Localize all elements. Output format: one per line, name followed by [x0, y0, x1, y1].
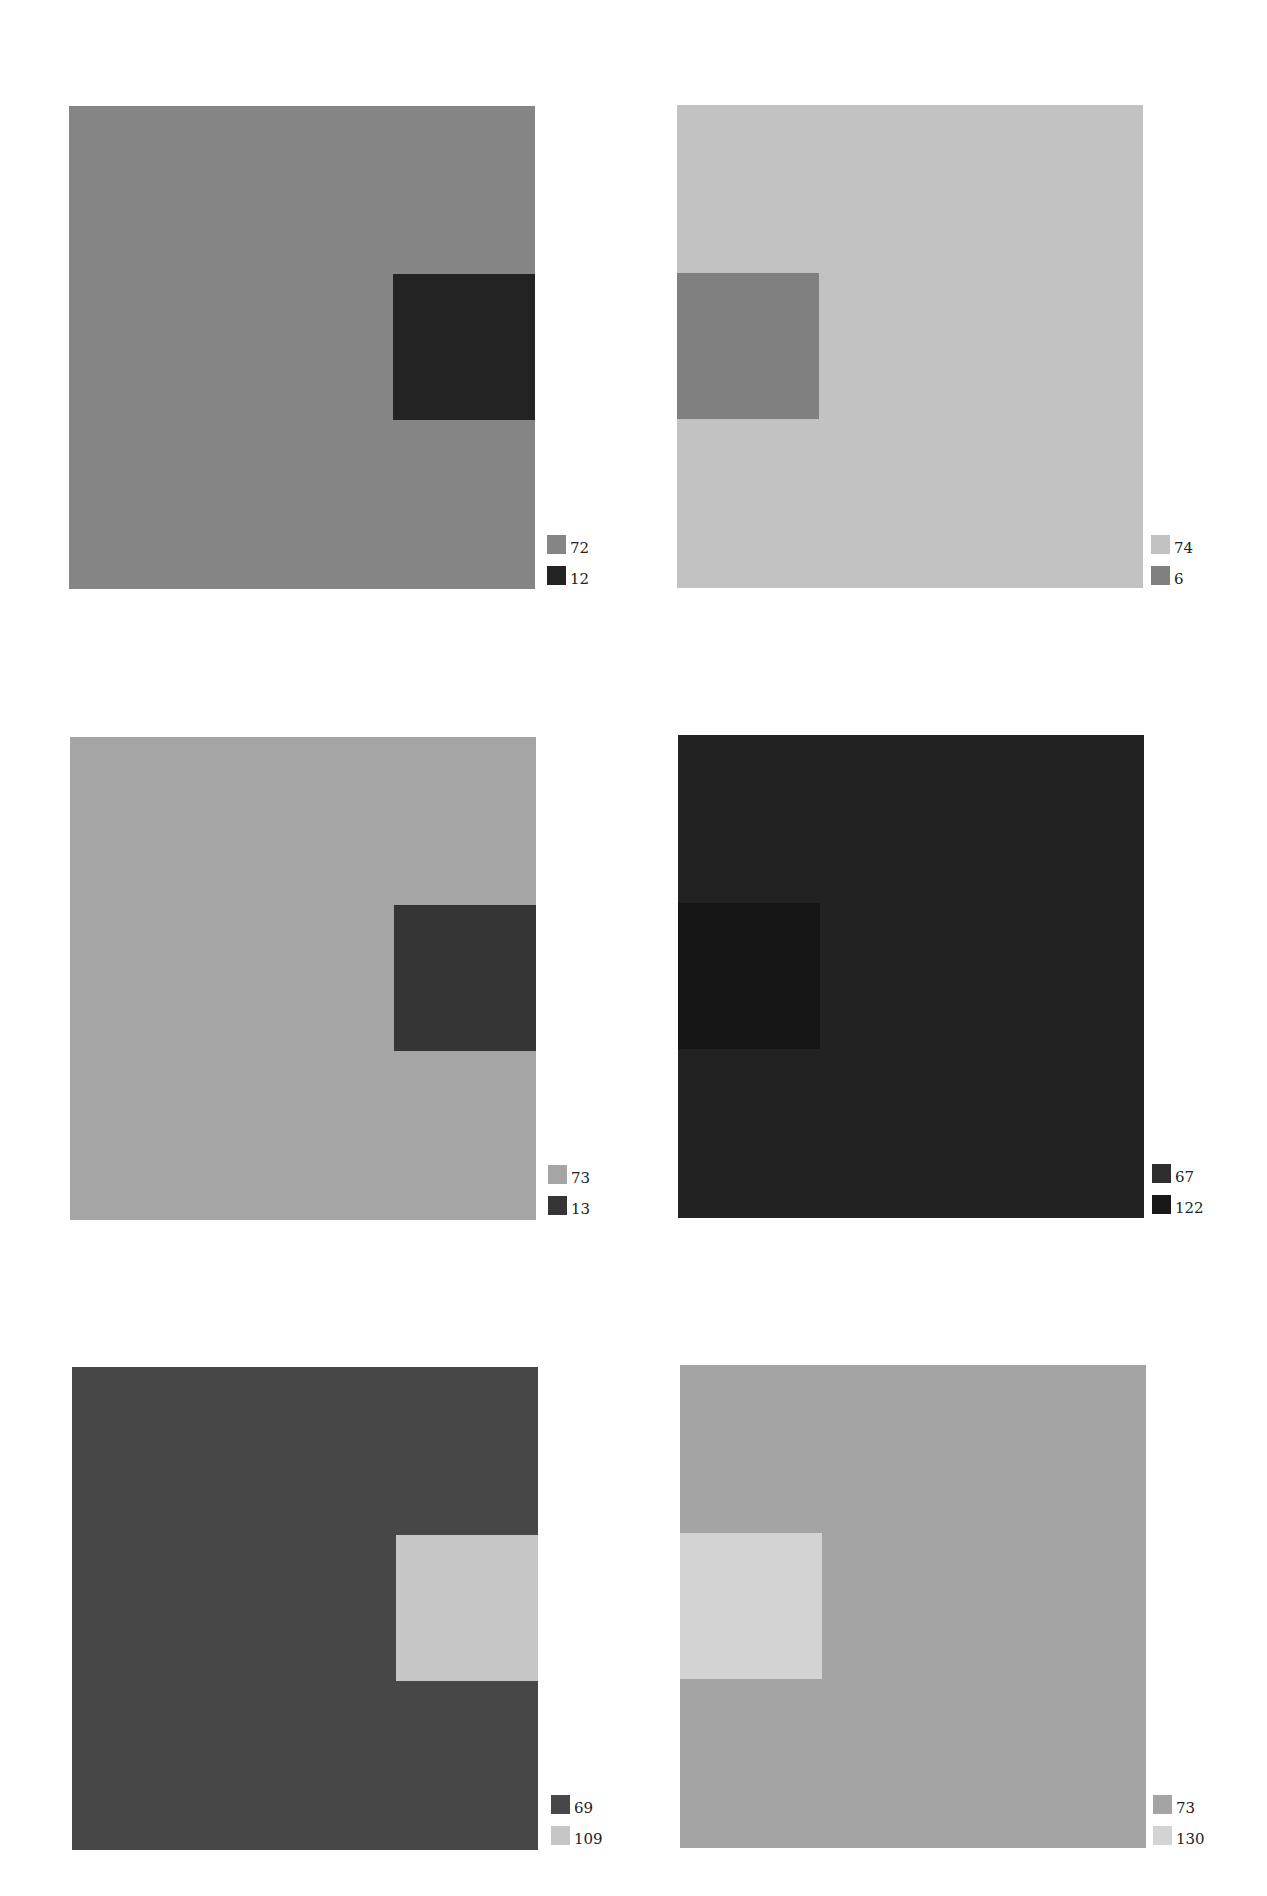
inner-square	[680, 1533, 822, 1679]
legend-label: 13	[571, 1200, 590, 1218]
inner-square	[393, 274, 535, 420]
legend-label: 74	[1174, 539, 1193, 557]
color-panel-3	[70, 737, 536, 1220]
legend-label: 6	[1174, 570, 1184, 588]
color-panel-5	[72, 1367, 538, 1850]
color-panel-4	[678, 735, 1144, 1218]
swatch	[551, 1826, 570, 1845]
swatch	[547, 566, 566, 585]
legend-label: 73	[571, 1169, 590, 1187]
color-panel-2	[677, 105, 1143, 588]
swatch	[1151, 566, 1170, 585]
swatch	[1153, 1795, 1172, 1814]
inner-square	[678, 903, 820, 1049]
legend-label: 67	[1175, 1168, 1194, 1186]
color-panel-6	[680, 1365, 1146, 1848]
color-panel-1	[69, 106, 535, 589]
inner-square	[394, 905, 536, 1051]
legend-label: 130	[1176, 1830, 1205, 1848]
swatch	[1152, 1164, 1171, 1183]
legend-label: 72	[570, 539, 589, 557]
legend-label: 122	[1175, 1199, 1204, 1217]
legend-label: 109	[574, 1830, 603, 1848]
swatch	[551, 1795, 570, 1814]
legend-label: 73	[1176, 1799, 1195, 1817]
inner-square	[677, 273, 819, 419]
inner-square	[396, 1535, 538, 1681]
legend-label: 69	[574, 1799, 593, 1817]
swatch	[1151, 535, 1170, 554]
swatch	[1153, 1826, 1172, 1845]
swatch	[1152, 1195, 1171, 1214]
swatch	[547, 535, 566, 554]
swatch	[548, 1196, 567, 1215]
legend-label: 12	[570, 570, 589, 588]
swatch	[548, 1165, 567, 1184]
